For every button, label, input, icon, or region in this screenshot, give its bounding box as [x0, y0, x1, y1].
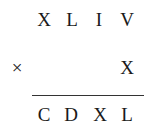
multiply-sign: × [7, 58, 27, 78]
product-digit: D [61, 105, 81, 125]
product-digit: X [90, 105, 110, 125]
multiplicand-digit: V [117, 10, 137, 30]
multiplicand-digit: I [89, 10, 109, 30]
multiplicand-digit: L [62, 10, 82, 30]
multiplier-digit: X [117, 58, 137, 78]
multiplicand-digit: X [34, 10, 54, 30]
product-digit: L [117, 105, 137, 125]
result-divider-line [32, 95, 144, 96]
product-digit: C [34, 105, 54, 125]
